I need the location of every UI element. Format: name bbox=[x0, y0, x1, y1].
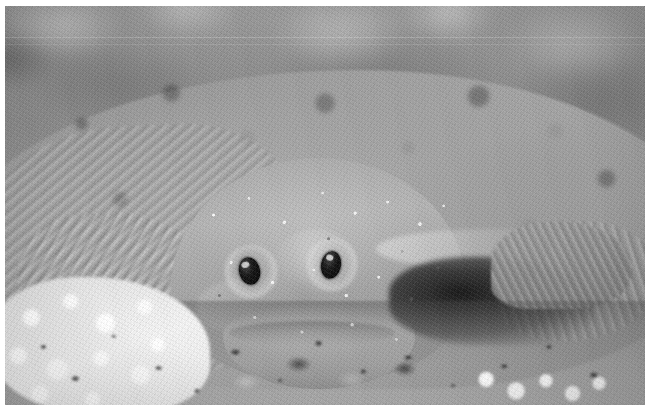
dark-pebble-specks bbox=[5, 317, 645, 405]
film-scratch-line-upper bbox=[5, 37, 645, 38]
film-scratch-line-lower bbox=[5, 44, 645, 45]
photograph-frame: flatfish Close-up black and white photog… bbox=[0, 0, 649, 415]
photograph-image bbox=[5, 6, 645, 405]
